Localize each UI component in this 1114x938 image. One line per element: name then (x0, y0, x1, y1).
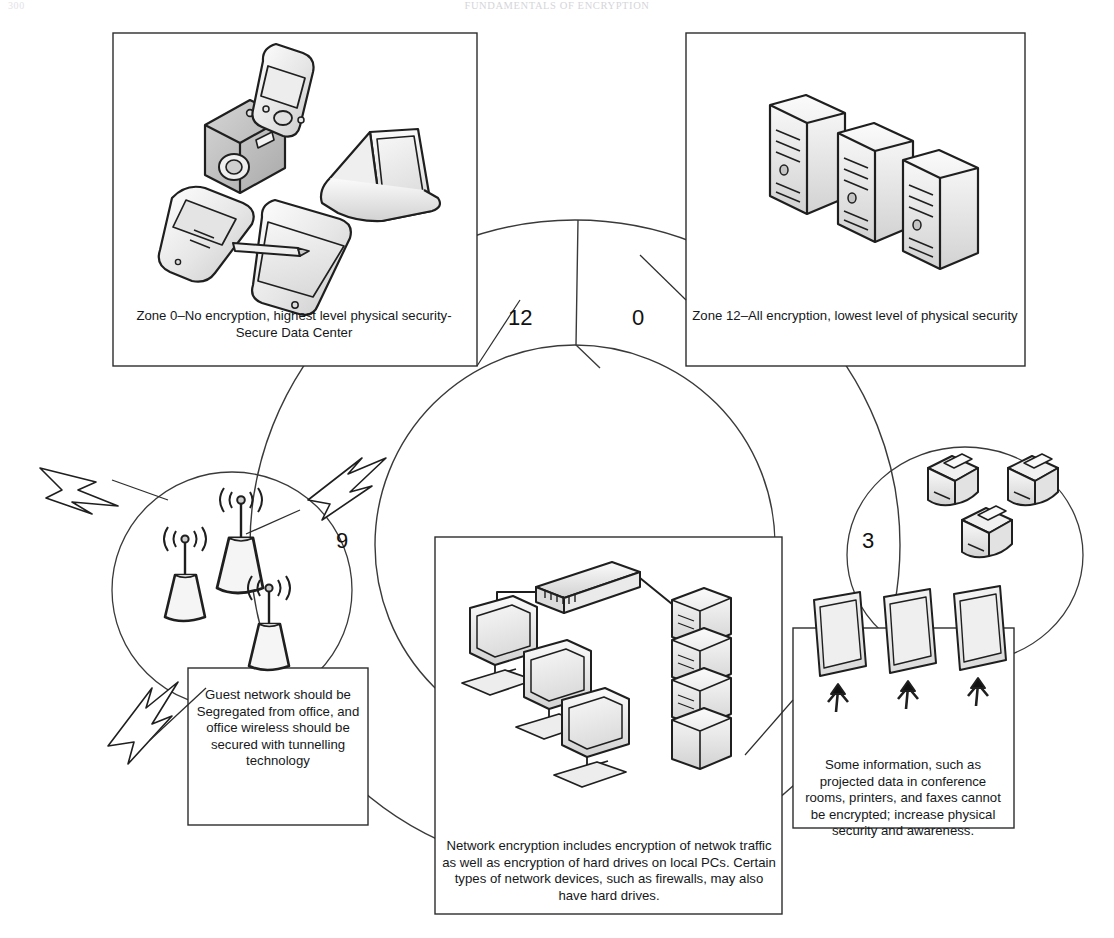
zone-number-12: 12 (508, 305, 532, 331)
caption-wireless: Guest network should be Segregated from … (192, 687, 364, 770)
server-tower-2 (838, 123, 913, 242)
leader-line-zone12 (640, 255, 686, 300)
server-rack-stack-icon (672, 588, 731, 769)
zone-number-9: 9 (336, 528, 348, 554)
server-tower-3 (903, 150, 978, 269)
encryption-zones-figure: 12 0 9 3 Zone 0–No encryption, highest l… (0, 0, 1114, 938)
caption-network: Network encryption includes encryption o… (440, 838, 778, 904)
zone-number-0: 0 (632, 305, 644, 331)
server-tower-1 (770, 95, 845, 214)
desktop-pc-3 (554, 688, 629, 787)
printers-illustration (928, 454, 1058, 557)
printer-icon-2 (1008, 454, 1058, 505)
wireless-access-point-2 (217, 488, 263, 593)
caption-physical: Some information, such as projected data… (798, 757, 1008, 840)
printer-icon-3 (962, 506, 1012, 557)
zone-number-3: 3 (862, 528, 874, 554)
printer-icon-1 (928, 454, 978, 505)
caption-zone12: Zone 12–All encryption, lowest level of … (690, 308, 1020, 325)
caption-zone0: Zone 0–No encryption, highest level phys… (118, 308, 470, 341)
wireless-access-point-1 (164, 527, 206, 621)
